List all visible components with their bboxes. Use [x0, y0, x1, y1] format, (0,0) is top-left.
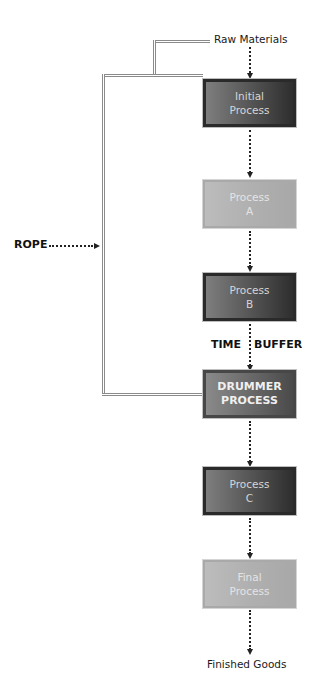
node-label-line1: Process — [230, 190, 270, 204]
node-label-line2: Process — [230, 103, 270, 117]
flow-initial-to-a — [249, 130, 251, 173]
node-label-line2: C — [246, 491, 253, 505]
node-label-line2: B — [246, 297, 253, 311]
flow-c-to-final — [249, 518, 251, 554]
node-label-line1: Process — [230, 477, 270, 491]
flow-a-to-b — [249, 231, 251, 267]
flow-final-to-finished — [249, 610, 251, 650]
rope-label: ROPE — [14, 238, 47, 251]
node-label-line1: Final — [237, 570, 261, 584]
node-drummer-process: DRUMMER PROCESS — [203, 370, 296, 418]
arrow-down-icon — [247, 172, 253, 178]
arrow-down-icon — [247, 649, 253, 655]
time-label: TIME — [211, 338, 241, 351]
node-label-line2: A — [246, 204, 253, 218]
node-initial-process: Initial Process — [203, 79, 296, 127]
node-label-line2: Process — [230, 584, 270, 598]
node-label-line1: Initial — [235, 89, 264, 103]
rope-line-to-drummer — [102, 393, 203, 396]
rope-line-main-vertical — [102, 74, 105, 396]
node-process-a: Process A — [203, 180, 296, 228]
rope-line-top — [153, 40, 210, 43]
node-process-b: Process B — [203, 273, 296, 321]
node-label-line1: DRUMMER — [217, 380, 281, 394]
flow-drummer-to-c — [249, 421, 251, 462]
node-final-process: Final Process — [203, 560, 296, 608]
arrow-down-icon — [247, 553, 253, 559]
raw-materials-label: Raw Materials — [214, 33, 288, 45]
rope-line-to-initial — [102, 74, 203, 77]
flow-b-to-drummer — [249, 324, 251, 366]
buffer-label: BUFFER — [254, 338, 302, 351]
node-label-line1: Process — [230, 283, 270, 297]
rope-arrow-icon — [94, 243, 100, 249]
node-label-line2: PROCESS — [221, 394, 278, 408]
rope-line-upper-vertical — [153, 40, 156, 76]
finished-goods-label: Finished Goods — [207, 658, 286, 670]
arrow-down-icon — [247, 266, 253, 272]
flow-raw-to-initial — [249, 47, 251, 73]
node-process-c: Process C — [203, 467, 296, 515]
rope-dotted-line — [49, 245, 93, 247]
